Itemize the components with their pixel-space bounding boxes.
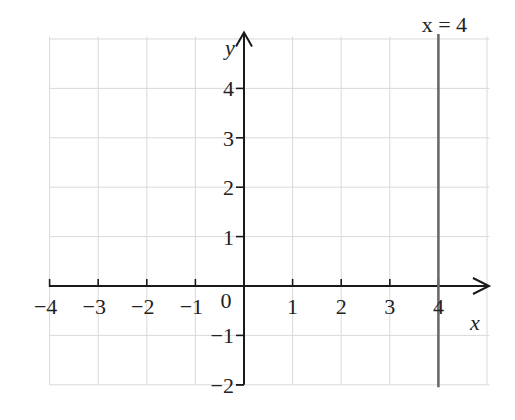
axes <box>50 33 489 385</box>
y-tick-label: −1 <box>211 323 234 348</box>
line-label-x-equals-4: x = 4 <box>422 12 467 37</box>
y-tick-label: 2 <box>223 175 234 200</box>
x-tick-label: −1 <box>180 294 203 319</box>
x-tick-label: 2 <box>336 294 347 319</box>
x-tick-label: 1 <box>287 294 298 319</box>
grid-lines <box>50 37 490 385</box>
x-tick-label: 3 <box>384 294 395 319</box>
y-axis-label: y <box>223 35 235 60</box>
y-tick-label: 1 <box>223 225 234 250</box>
x-tick-label: 4 <box>433 294 444 319</box>
x-tick-label: −3 <box>82 294 105 319</box>
y-tick-label: 4 <box>223 76 234 101</box>
x-tick-label: −2 <box>131 294 154 319</box>
labels: −4−3−2−112344321−1−20xyx = 4 <box>34 12 480 398</box>
x-axis-label: x <box>469 310 480 335</box>
coordinate-plane: −4−3−2−112344321−1−20xyx = 4 <box>0 0 515 420</box>
x-tick-label: −4 <box>34 294 57 319</box>
y-tick-label: −2 <box>211 373 234 398</box>
origin-label: 0 <box>221 288 232 313</box>
y-tick-label: 3 <box>223 126 234 151</box>
